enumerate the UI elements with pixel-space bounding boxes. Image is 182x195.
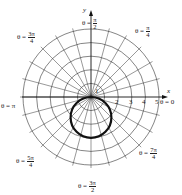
angle-label-pi: θ = π: [1, 103, 15, 110]
angle-label-3pi-over-4: θ = 3π4: [17, 31, 35, 44]
grid-radial-line: [30, 97, 91, 133]
theta-prefix: θ =: [82, 19, 93, 27]
angle-label-pi-over-2: θ = π2: [82, 17, 97, 30]
grid-radial-line: [41, 47, 91, 97]
x-axis-label: x: [167, 88, 170, 95]
angle-label-5pi-over-4: θ = 5π4: [16, 155, 34, 168]
angle-label-pi-over-4: θ = π4: [135, 25, 150, 38]
tick-label-5: 5: [155, 99, 159, 106]
grid-radial-line: [30, 62, 91, 98]
angle-label-3pi-over-2: θ = 3π2: [78, 180, 96, 193]
theta-prefix: θ =: [78, 182, 89, 190]
fraction-denominator: 4: [29, 162, 32, 168]
angle-label-0: θ = 0: [160, 99, 174, 106]
fraction-denominator: 2: [91, 187, 94, 193]
tick-label-2: 2: [115, 99, 119, 106]
tick-label-3: 3: [129, 99, 133, 106]
fraction-denominator: 4: [152, 154, 155, 160]
theta-prefix: θ =: [139, 149, 150, 157]
grid-radial-line: [56, 36, 92, 97]
fraction-denominator: 4: [146, 32, 149, 38]
tick-label-4: 4: [142, 99, 146, 106]
origin-point: [90, 96, 93, 99]
angle-label-7pi-over-4: θ = 7π4: [139, 147, 157, 160]
y-axis-label: y: [83, 7, 86, 14]
fraction-denominator: 4: [30, 38, 33, 44]
fraction-denominator: 2: [93, 24, 96, 30]
theta-prefix: θ =: [17, 33, 28, 41]
theta-prefix: θ =: [16, 157, 27, 165]
grid-radial-line: [41, 97, 91, 147]
grid-radial-line: [91, 62, 152, 98]
theta-prefix: θ =: [135, 27, 146, 35]
tick-label-1: 1: [95, 88, 99, 95]
